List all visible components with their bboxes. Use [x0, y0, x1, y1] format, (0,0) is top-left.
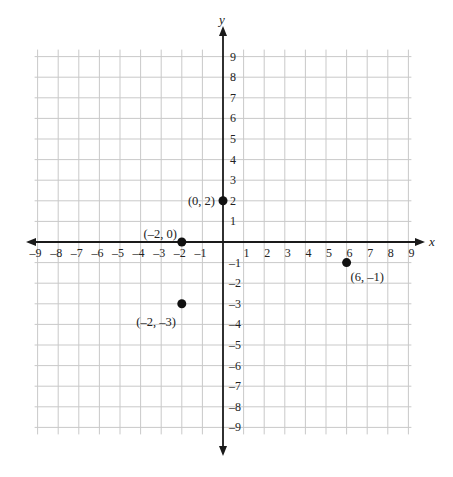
y-tick-label: 8: [230, 70, 236, 84]
y-tick-label: –7: [228, 379, 241, 393]
x-axis-left-arrow-icon: [26, 238, 36, 246]
x-axis-label: x: [428, 234, 435, 249]
data-point: [219, 196, 228, 205]
y-tick-label: 6: [230, 111, 236, 125]
y-tick-label: 4: [230, 153, 236, 167]
data-point-label: (–2, 0): [143, 227, 176, 241]
x-tick-label: –8: [49, 246, 62, 260]
y-tick-label: 9: [230, 50, 236, 64]
y-axis-up-arrow-icon: [219, 26, 227, 36]
x-tick-label: 1: [244, 246, 250, 260]
y-axis-down-arrow-icon: [219, 446, 227, 456]
data-point: [177, 299, 186, 308]
data-point-label: (–2, –3): [136, 315, 176, 329]
y-tick-label: 5: [230, 132, 236, 146]
x-tick-label: 4: [305, 246, 311, 260]
x-tick-label: –9: [29, 246, 42, 260]
y-tick-label: –1: [228, 256, 241, 270]
x-tick-label: 3: [285, 246, 291, 260]
x-tick-label: 2: [264, 246, 270, 260]
x-axis-right-arrow-icon: [415, 238, 425, 246]
y-tick-label: 7: [230, 91, 236, 105]
y-tick-label: –4: [228, 317, 241, 331]
x-tick-label: –3: [152, 246, 165, 260]
x-tick-label: 9: [408, 246, 414, 260]
y-tick-label: 3: [230, 173, 236, 187]
data-point: [177, 238, 186, 247]
x-tick-label: 8: [388, 246, 394, 260]
x-tick-label: 7: [367, 246, 373, 260]
y-tick-label: –6: [228, 359, 241, 373]
x-tick-label: 5: [326, 246, 332, 260]
y-tick-label: –5: [228, 338, 241, 352]
x-tick-label: –5: [111, 246, 124, 260]
x-tick-label: –6: [90, 246, 103, 260]
y-tick-label: –9: [228, 420, 241, 434]
data-point: [342, 258, 351, 267]
data-point-label: (6, –1): [351, 270, 384, 284]
x-tick-label: –2: [173, 246, 186, 260]
x-tick-label: –1: [193, 246, 206, 260]
y-axis-label: y: [217, 12, 225, 27]
x-tick-label: –7: [70, 246, 83, 260]
x-tick-label: 6: [347, 246, 353, 260]
y-tick-label: 1: [230, 214, 236, 228]
y-tick-label: –3: [228, 297, 241, 311]
data-point-label: (0, 2): [188, 194, 215, 208]
x-tick-label: –4: [132, 246, 145, 260]
y-tick-label: 2: [230, 194, 236, 208]
y-tick-label: –2: [228, 276, 241, 290]
y-tick-label: –8: [228, 400, 241, 414]
coordinate-plane: x y –9–8–7–6–5–4–3–2–1123456789987654321…: [0, 0, 453, 477]
